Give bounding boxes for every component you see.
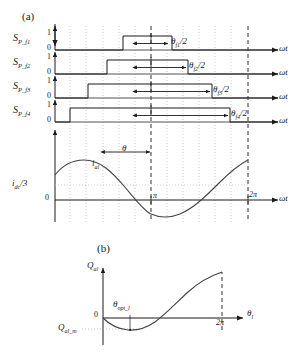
theta-4-suffix: /2: [240, 108, 247, 118]
pi-tick-label: π: [153, 192, 157, 200]
signal-label-4: SP_f4: [13, 105, 30, 118]
two-pi-tick-label: 2π: [249, 191, 257, 199]
row1-high-tick: 1: [47, 29, 51, 37]
signal-row-3: [55, 76, 278, 98]
theta-span-label: θ: [122, 144, 126, 153]
signal-label-2: SP_f2: [13, 57, 30, 70]
row2-axis-label: ωt: [279, 68, 288, 77]
panel-b-x-label: θl: [247, 309, 253, 320]
row3-axis-label: ωt: [279, 92, 288, 101]
signal-label-3: SP_f3: [13, 81, 30, 94]
signal-label-4-sub: P_f4: [18, 110, 30, 117]
theta-3-suffix: /2: [222, 84, 229, 94]
row1-axis-label: ωt: [279, 44, 288, 53]
row2-high-tick: 1: [47, 53, 51, 61]
waveform-y-label: idc/3: [12, 179, 27, 190]
theta-label-4: θf4/2: [231, 109, 247, 120]
panel-b-y-sub: al: [94, 266, 99, 272]
panel-b-opt-sub: opt_l: [117, 305, 129, 311]
row4-axis-label: ωt: [279, 116, 288, 125]
panel-b-two-pi-tick: 2π: [216, 319, 224, 327]
gridlines-dotted: [70, 26, 231, 222]
current-curve-label: ial: [92, 159, 99, 170]
current-curve-sub: al: [95, 164, 100, 170]
reference-lines-dashed: [151, 26, 248, 222]
current-waveform-plot: [55, 130, 278, 222]
waveform-y-suffix: /3: [20, 178, 27, 188]
figure-svg: [0, 0, 295, 357]
row4-high-tick: 1: [47, 101, 51, 109]
figure-root: (a) SP_f1 1 0 θf1/2 ωt SP_f2 1 0 θf2/2 ω…: [0, 0, 295, 357]
panel-b-y-label: Qal: [87, 261, 98, 272]
panel-b-min-sub: al_m: [65, 328, 77, 334]
signal-row-2: [55, 52, 278, 74]
theta-1-suffix: /2: [180, 36, 187, 46]
panel-b-x-sub: l: [251, 314, 253, 320]
panel-b-plot: [82, 268, 243, 345]
panel-b-tag: (b): [97, 243, 110, 254]
row2-low-tick: 0: [47, 68, 51, 76]
signal-label-1: SP_f1: [13, 33, 30, 46]
theta-label-3: θf3/2: [213, 85, 229, 96]
signal-label-3-sub: P_f3: [18, 86, 30, 93]
panel-b-min-label: Qal_m: [58, 323, 77, 334]
panel-a-tag: (a): [22, 11, 34, 22]
row4-low-tick: 0: [47, 116, 51, 124]
theta-label-2: θf2/2: [189, 61, 205, 72]
waveform-zero-tick: 0: [45, 194, 49, 202]
signal-label-1-sub: P_f1: [18, 38, 30, 45]
signal-row-1: [55, 24, 278, 50]
theta-2-suffix: /2: [198, 60, 205, 70]
row3-high-tick: 1: [47, 77, 51, 85]
waveform-axis-label: ωt: [279, 194, 288, 203]
panel-b-origin-label: 0: [94, 311, 98, 319]
row1-low-tick: 0: [47, 44, 51, 52]
theta-label-1: θf1/2: [171, 37, 187, 48]
signal-label-2-sub: P_f2: [18, 62, 30, 69]
row3-low-tick: 0: [47, 92, 51, 100]
panel-b-opt-label: θopt_l: [113, 300, 130, 311]
